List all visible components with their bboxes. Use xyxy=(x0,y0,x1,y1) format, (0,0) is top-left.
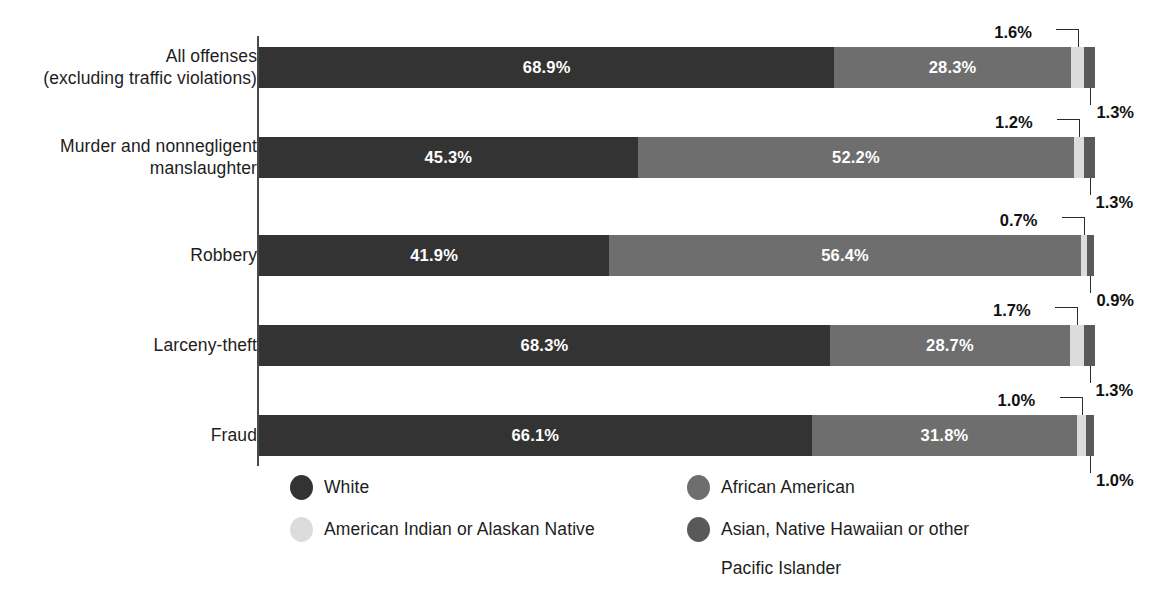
callout-asian: 1.0% xyxy=(1096,471,1134,490)
bar-segment-african-american-value: 56.4% xyxy=(821,246,869,265)
legend-label-asian: Asian, Native Hawaiian or other Pacific … xyxy=(721,516,969,582)
bar-row-label-line2: (excluding traffic violations) xyxy=(0,67,257,89)
legend-label-white: White xyxy=(324,474,369,501)
bar-row-label: Larceny-theft xyxy=(0,334,257,356)
callout-leader-american-indian-stem xyxy=(1084,217,1085,235)
stacked-bar[interactable]: 66.1%31.8% xyxy=(259,415,1095,456)
callout-american-indian: 1.7% xyxy=(993,301,1031,320)
callout-leader-american-indian-stem xyxy=(1077,307,1078,325)
bar-segment-white-value: 66.1% xyxy=(511,426,559,445)
bar-segment-african-american-value: 28.7% xyxy=(926,336,974,355)
legend-column-left: White American Indian or Alaskan Native xyxy=(290,474,690,558)
legend-swatch-asian-icon xyxy=(687,517,710,542)
bar-segment-american-indian[interactable] xyxy=(1071,47,1084,88)
legend-item-asian-pacific-islander[interactable]: Asian, Native Hawaiian or other Pacific … xyxy=(687,516,1087,582)
legend-column-right: African American Asian, Native Hawaiian … xyxy=(687,474,1087,594)
callout-leader-asian-stem xyxy=(1090,366,1091,383)
legend-label-asian-line1: Asian, Native Hawaiian or other xyxy=(721,519,969,539)
bar-segment-african-american-value: 31.8% xyxy=(921,426,969,445)
bar-segment-white-value: 68.3% xyxy=(521,336,569,355)
callout-asian: 1.3% xyxy=(1096,381,1134,400)
bar-segment-african-american-value: 52.2% xyxy=(832,148,880,167)
bar-row-label-line1: All offenses xyxy=(166,46,257,66)
bar-segment-african-american[interactable]: 52.2% xyxy=(638,137,1074,178)
bar-row-label-line2: manslaughter xyxy=(0,157,257,179)
callout-leader-american-indian-stem xyxy=(1078,29,1079,47)
bar-segment-white[interactable]: 68.3% xyxy=(259,325,830,366)
callout-american-indian: 0.7% xyxy=(1000,211,1038,230)
callout-leader-asian-stem xyxy=(1090,456,1091,473)
callout-leader-asian-stem xyxy=(1090,276,1091,293)
legend-swatch-white-icon xyxy=(290,475,313,500)
bar-row: Murder and nonnegligentmanslaughter45.3%… xyxy=(0,137,1157,181)
callout-american-indian: 1.2% xyxy=(995,113,1033,132)
callout-leader-asian-stem xyxy=(1090,88,1091,105)
bar-row: Robbery41.9%56.4%0.7%0.9% xyxy=(0,235,1157,279)
stacked-bar[interactable]: 45.3%52.2% xyxy=(259,137,1095,178)
callout-leader-american-indian xyxy=(1060,397,1082,398)
plot-area: All offenses(excluding traffic violation… xyxy=(0,0,1157,470)
bar-segment-asian[interactable] xyxy=(1084,325,1095,366)
legend-item-white[interactable]: White xyxy=(290,474,690,504)
bar-segment-white[interactable]: 66.1% xyxy=(259,415,812,456)
bar-segment-asian[interactable] xyxy=(1087,235,1095,276)
bar-row-label-line1: Robbery xyxy=(190,245,257,265)
callout-leader-american-indian xyxy=(1055,307,1077,308)
bar-row: Fraud66.1%31.8%1.0%1.0% xyxy=(0,415,1157,459)
bar-segment-asian[interactable] xyxy=(1086,415,1094,456)
bar-row-label: Robbery xyxy=(0,244,257,266)
legend-swatch-american-indian-icon xyxy=(290,517,313,542)
legend-item-african-american[interactable]: African American xyxy=(687,474,1087,504)
legend-swatch-african-american-icon xyxy=(687,475,710,500)
callout-american-indian: 1.0% xyxy=(998,391,1036,410)
stacked-bar[interactable]: 68.9%28.3% xyxy=(259,47,1095,88)
bar-row: Larceny-theft68.3%28.7%1.7%1.3% xyxy=(0,325,1157,369)
bar-row-label-line1: Fraud xyxy=(211,425,257,445)
bar-row-label: Murder and nonnegligentmanslaughter xyxy=(0,135,257,179)
callout-leader-asian-stem xyxy=(1090,178,1091,195)
bar-segment-african-american-value: 28.3% xyxy=(929,58,977,77)
bar-row: All offenses(excluding traffic violation… xyxy=(0,47,1157,91)
legend-label-american-indian: American Indian or Alaskan Native xyxy=(324,516,595,543)
bar-segment-asian[interactable] xyxy=(1084,137,1095,178)
bar-segment-white[interactable]: 41.9% xyxy=(259,235,609,276)
bar-segment-white[interactable]: 68.9% xyxy=(259,47,834,88)
bar-row-label-line1: Murder and nonnegligent xyxy=(60,136,257,156)
bar-segment-african-american[interactable]: 28.7% xyxy=(830,325,1070,366)
bar-segment-american-indian[interactable] xyxy=(1074,137,1084,178)
bar-segment-white-value: 45.3% xyxy=(424,148,472,167)
legend-label-african-american: African American xyxy=(721,474,855,501)
bar-row-label: Fraud xyxy=(0,424,257,446)
callout-american-indian: 1.6% xyxy=(994,23,1032,42)
bar-segment-white-value: 68.9% xyxy=(523,58,571,77)
callout-leader-american-indian xyxy=(1062,217,1084,218)
chart-legend: White American Indian or Alaskan Native … xyxy=(290,474,1090,600)
callout-leader-american-indian xyxy=(1057,119,1079,120)
bar-segment-american-indian[interactable] xyxy=(1077,415,1085,456)
callout-asian: 1.3% xyxy=(1096,193,1134,212)
bar-segment-african-american[interactable]: 28.3% xyxy=(834,47,1070,88)
callout-leader-american-indian-stem xyxy=(1079,119,1080,137)
bar-row-label-line1: Larceny-theft xyxy=(154,335,257,355)
stacked-bar-chart: All offenses(excluding traffic violation… xyxy=(0,0,1157,608)
stacked-bar[interactable]: 68.3%28.7% xyxy=(259,325,1095,366)
legend-item-american-indian[interactable]: American Indian or Alaskan Native xyxy=(290,516,690,546)
callout-leader-american-indian-stem xyxy=(1082,397,1083,415)
bar-segment-african-american[interactable]: 56.4% xyxy=(609,235,1081,276)
legend-label-asian-line2: Pacific Islander xyxy=(721,555,969,582)
bar-segment-white-value: 41.9% xyxy=(410,246,458,265)
bar-segment-white[interactable]: 45.3% xyxy=(259,137,638,178)
bar-row-label: All offenses(excluding traffic violation… xyxy=(0,45,257,89)
callout-asian: 1.3% xyxy=(1096,103,1134,122)
callout-leader-american-indian xyxy=(1056,29,1078,30)
bar-segment-american-indian[interactable] xyxy=(1070,325,1084,366)
bar-segment-african-american[interactable]: 31.8% xyxy=(812,415,1078,456)
callout-asian: 0.9% xyxy=(1096,291,1134,310)
bar-segment-asian[interactable] xyxy=(1084,47,1095,88)
stacked-bar[interactable]: 41.9%56.4% xyxy=(259,235,1095,276)
